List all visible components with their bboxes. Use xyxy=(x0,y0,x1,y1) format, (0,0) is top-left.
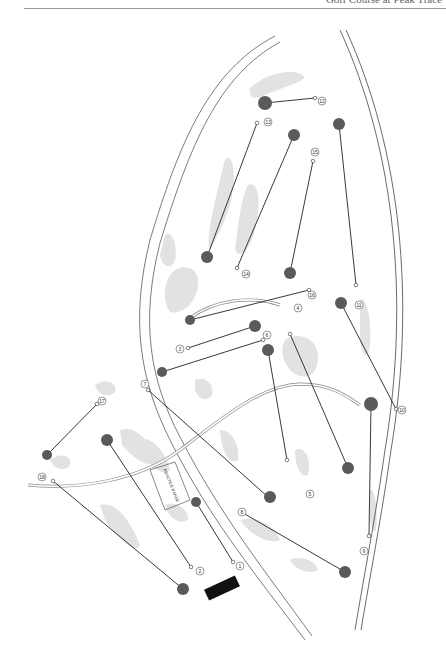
svg-text:8: 8 xyxy=(241,509,244,515)
cart-path xyxy=(28,300,360,486)
svg-text:11: 11 xyxy=(356,302,361,308)
perimeter-road xyxy=(140,36,312,640)
hole-label-17: 17 xyxy=(98,397,106,405)
svg-text:PRACTICE RANGE: PRACTICE RANGE xyxy=(162,468,180,503)
svg-text:16: 16 xyxy=(309,292,315,298)
hole-label-10: 10 xyxy=(398,406,406,414)
hole-label-13: 13 xyxy=(264,118,272,126)
hole-label-11: 11 xyxy=(355,301,363,309)
practice-range: PRACTICE RANGE xyxy=(150,462,190,510)
hole-label-6: 6 xyxy=(263,331,271,339)
course-map: PRACTICE RANGE xyxy=(0,0,446,660)
hole-label-8: 8 xyxy=(238,508,246,516)
svg-text:4: 4 xyxy=(297,305,300,311)
hole-number-labels: 1 2 3 4 5 6 7 8 9 10 11 12 13 14 15 16 1… xyxy=(38,97,406,575)
hole-label-5: 5 xyxy=(306,490,314,498)
svg-text:9: 9 xyxy=(363,548,366,554)
svg-text:10: 10 xyxy=(399,407,405,413)
svg-text:13: 13 xyxy=(265,119,271,125)
hole-label-14: 14 xyxy=(242,270,250,278)
hole-label-12: 12 xyxy=(318,97,326,105)
svg-text:1: 1 xyxy=(239,563,242,569)
svg-text:5: 5 xyxy=(309,491,312,497)
svg-text:15: 15 xyxy=(312,149,318,155)
railway-tracks xyxy=(340,30,403,630)
clubhouse-building xyxy=(204,575,240,600)
svg-text:14: 14 xyxy=(243,271,249,277)
svg-text:18: 18 xyxy=(39,474,45,480)
hole-label-2: 2 xyxy=(196,567,204,575)
rough-areas xyxy=(50,72,377,572)
svg-text:2: 2 xyxy=(199,568,202,574)
hole-label-9: 9 xyxy=(360,547,368,555)
hole-label-7: 7 xyxy=(141,380,149,388)
svg-text:12: 12 xyxy=(319,98,325,104)
svg-text:7: 7 xyxy=(144,381,147,387)
hole-label-4: 4 xyxy=(294,304,302,312)
svg-text:3: 3 xyxy=(179,346,182,352)
hole-label-16: 16 xyxy=(308,291,316,299)
greens xyxy=(42,96,378,595)
svg-text:17: 17 xyxy=(99,398,105,404)
svg-text:6: 6 xyxy=(266,332,269,338)
hole-label-18: 18 xyxy=(38,473,46,481)
hole-label-1: 1 xyxy=(236,562,244,570)
hole-label-15: 15 xyxy=(311,148,319,156)
hole-label-3: 3 xyxy=(176,345,184,353)
hole-lines xyxy=(47,98,396,589)
